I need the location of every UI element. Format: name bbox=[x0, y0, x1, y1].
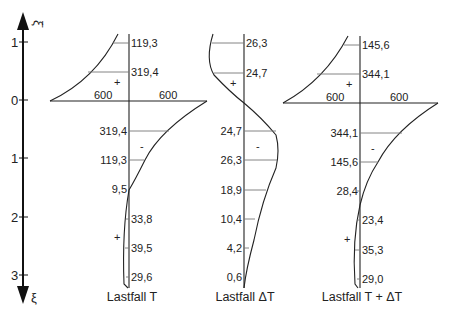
baseline-left-value: 600 bbox=[326, 91, 344, 103]
panel-lastfall-delta-t: 26,3 24,7 + 24,7 - 26,3 18,9 10,4 4,2 0,… bbox=[209, 34, 278, 304]
value-label: 344,1 bbox=[330, 127, 358, 139]
sign-plus: + bbox=[114, 76, 120, 88]
value-label: 29,6 bbox=[131, 271, 152, 283]
value-label: 26,3 bbox=[221, 154, 242, 166]
axis-label-bottom: ξ bbox=[31, 290, 37, 305]
baseline-left-value: 600 bbox=[94, 89, 112, 101]
value-label: 4,2 bbox=[227, 242, 242, 254]
sign-plus: + bbox=[230, 77, 236, 89]
axis-label-top: ξ̄ bbox=[31, 20, 46, 28]
value-label: 10,4 bbox=[221, 213, 242, 225]
tick-label: 2 bbox=[11, 210, 18, 225]
value-label: 119,3 bbox=[131, 37, 158, 49]
stress-distribution-diagram: 1 0 1 2 3 ξ̄ ξ 119,3 319,4 + 600 600 319… bbox=[0, 0, 450, 313]
panel-lastfall-t-plus-delta-t: 145,6 344,1 + 600 600 344,1 - 145,6 28,4… bbox=[283, 36, 438, 304]
value-label: 24,7 bbox=[221, 125, 242, 137]
baseline-right-value: 600 bbox=[390, 91, 408, 103]
value-label: 24,7 bbox=[246, 67, 267, 79]
baseline-right-value: 600 bbox=[159, 89, 177, 101]
value-label: 319,4 bbox=[131, 66, 159, 78]
value-label: 33,8 bbox=[131, 213, 152, 225]
sign-minus: - bbox=[256, 140, 260, 152]
sign-minus: - bbox=[371, 142, 375, 154]
sign-plus: + bbox=[344, 233, 350, 245]
value-label: 9,5 bbox=[112, 183, 127, 195]
value-label: 344,1 bbox=[362, 68, 390, 80]
tick-label: 1 bbox=[11, 151, 18, 166]
sign-plus: + bbox=[346, 78, 352, 90]
value-label: 39,5 bbox=[131, 242, 152, 254]
value-label: 29,0 bbox=[362, 273, 383, 285]
panel-caption: Lastfall T + ΔT bbox=[322, 290, 403, 304]
tick-label: 1 bbox=[11, 35, 18, 50]
panel-caption: Lastfall T bbox=[107, 290, 158, 304]
value-label: 145,6 bbox=[362, 39, 390, 51]
sign-plus: + bbox=[114, 231, 120, 243]
tick-label: 3 bbox=[11, 268, 18, 283]
panel-caption: Lastfall ΔT bbox=[215, 290, 274, 304]
depth-axis: 1 0 1 2 3 ξ̄ ξ bbox=[11, 12, 46, 305]
sign-minus: - bbox=[140, 140, 144, 152]
value-label: 23,4 bbox=[362, 214, 383, 226]
value-label: 18,9 bbox=[221, 184, 242, 196]
value-label: 28,4 bbox=[337, 185, 358, 197]
value-label: 145,6 bbox=[330, 156, 358, 168]
arrow-up-icon bbox=[17, 12, 29, 30]
value-label: 0,6 bbox=[227, 271, 242, 283]
value-label: 119,3 bbox=[100, 154, 127, 166]
arrow-down-icon bbox=[17, 286, 29, 304]
value-label: 319,4 bbox=[99, 125, 127, 137]
value-label: 26,3 bbox=[246, 37, 267, 49]
value-label: 35,3 bbox=[362, 244, 383, 256]
tick-label: 0 bbox=[11, 93, 18, 108]
panel-lastfall-t: 119,3 319,4 + 600 600 319,4 - 119,3 9,5 … bbox=[50, 34, 207, 304]
